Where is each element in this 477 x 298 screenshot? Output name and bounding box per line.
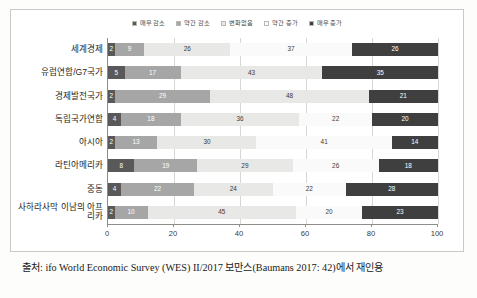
bar-value-label: 26	[332, 163, 339, 169]
legend-label: 매우 감소	[140, 20, 166, 26]
bar-value-label: 13	[132, 139, 139, 145]
bar-segment[interactable]: 29	[115, 90, 211, 103]
bar-segment[interactable]: 2	[108, 136, 115, 149]
bar-value-label: 20	[401, 116, 408, 122]
legend-swatch-icon	[221, 21, 226, 26]
bar-segment[interactable]: 41	[256, 136, 391, 149]
bar-segment[interactable]: 37	[230, 43, 352, 56]
bar-value-label: 36	[236, 116, 243, 122]
bar-value-label: 22	[306, 186, 313, 192]
bar-value-label: 26	[392, 46, 399, 52]
legend-item[interactable]: 약간 증가	[264, 20, 298, 26]
bar-value-label: 30	[203, 139, 210, 145]
bar-segment[interactable]: 26	[293, 159, 379, 172]
bar-segment[interactable]: 28	[346, 183, 438, 196]
bar-segment[interactable]: 13	[115, 136, 158, 149]
bar-value-label: 20	[326, 209, 333, 215]
bar-segment[interactable]: 18	[121, 113, 180, 126]
bar-segment[interactable]: 43	[181, 66, 323, 79]
plot-area: 2926372651743352294821418362220213304114…	[107, 38, 438, 224]
chart-page: 매우 감소약간 감소변화없음약간 증가매우 증가 세계경제유럽연합/G7국가경제…	[0, 0, 477, 298]
bar-value-label: 2	[110, 209, 114, 215]
bar-value-label: 48	[286, 93, 293, 99]
chart-legend: 매우 감소약간 감소변화없음약간 증가매우 증가	[11, 20, 463, 26]
bar-segment[interactable]: 8	[108, 159, 134, 172]
bar-value-label: 2	[110, 46, 114, 52]
bar-segment[interactable]: 45	[148, 206, 297, 219]
bar-row: 213304114	[108, 136, 438, 149]
legend-label: 매우 증가	[317, 20, 343, 26]
bar-segment[interactable]: 22	[273, 183, 346, 196]
bar-value-label: 28	[388, 186, 395, 192]
bar-row: 5174335	[108, 66, 438, 79]
bar-value-label: 41	[321, 139, 328, 145]
x-tick-mark	[371, 224, 372, 227]
bar-segment[interactable]: 4	[108, 183, 121, 196]
bar-row: 29263726	[108, 43, 438, 56]
bar-segment[interactable]: 10	[115, 206, 148, 219]
bar-segment[interactable]: 26	[352, 43, 438, 56]
category-label: 아시아	[11, 138, 103, 147]
bar-segment[interactable]: 29	[197, 159, 293, 172]
legend-swatch-icon	[309, 21, 314, 26]
bar-segment[interactable]: 36	[181, 113, 300, 126]
x-tick-label: 80	[367, 229, 375, 238]
bar-segment[interactable]: 24	[194, 183, 273, 196]
x-tick-mark	[305, 224, 306, 227]
bar-row: 210452023	[108, 206, 438, 219]
bar-segment[interactable]: 20	[372, 113, 438, 126]
bar-segment[interactable]: 2	[108, 43, 115, 56]
bar-segment[interactable]: 18	[379, 159, 438, 172]
bar-segment[interactable]: 2	[108, 206, 115, 219]
legend-item[interactable]: 변화없음	[221, 20, 253, 26]
bar-segment[interactable]: 26	[144, 43, 230, 56]
bar-row: 2294821	[108, 90, 438, 103]
bar-value-label: 21	[400, 93, 407, 99]
bar-segment[interactable]: 35	[322, 66, 438, 79]
category-label: 사하라사막 이남의 아프리카	[11, 203, 103, 222]
bar-value-label: 22	[154, 186, 161, 192]
bar-value-label: 29	[241, 163, 248, 169]
bar-value-label: 35	[377, 70, 384, 76]
bar-segment[interactable]: 14	[392, 136, 438, 149]
x-tick-label: 40	[235, 229, 243, 238]
category-axis-labels: 세계경제유럽연합/G7국가경제발전국가독립국가연합아시아라틴아메리카중동사하라사…	[11, 38, 107, 224]
bar-segment[interactable]: 19	[134, 159, 197, 172]
bar-segment[interactable]: 2	[108, 90, 115, 103]
bar-value-label: 14	[411, 139, 418, 145]
bar-value-label: 43	[248, 70, 255, 76]
bar-segment[interactable]: 9	[115, 43, 145, 56]
bar-value-label: 4	[113, 116, 117, 122]
bar-value-label: 24	[230, 186, 237, 192]
legend-item[interactable]: 매우 증가	[309, 20, 343, 26]
bar-value-label: 4	[113, 186, 117, 192]
bar-segment[interactable]: 21	[369, 90, 438, 103]
x-axis-line	[107, 224, 437, 225]
bar-segment[interactable]: 5	[108, 66, 125, 79]
legend-item[interactable]: 매우 감소	[132, 20, 166, 26]
source-caption: 출처: ifo World Economic Survey (WES) II/2…	[22, 262, 458, 274]
bar-segment[interactable]: 48	[210, 90, 368, 103]
bar-segment[interactable]: 23	[362, 206, 438, 219]
bar-value-label: 22	[332, 116, 339, 122]
category-label: 유럽연합/G7국가	[11, 68, 103, 77]
category-label: 독립국가연합	[11, 115, 103, 124]
bar-segment[interactable]: 22	[299, 113, 372, 126]
bar-segment[interactable]: 20	[296, 206, 362, 219]
bar-segment[interactable]: 30	[157, 136, 256, 149]
legend-item[interactable]: 약간 감소	[176, 20, 210, 26]
x-tick-mark	[239, 224, 240, 227]
x-tick-mark	[107, 224, 108, 227]
bar-value-label: 8	[119, 163, 123, 169]
figure-frame: 매우 감소약간 감소변화없음약간 증가매우 증가 세계경제유럽연합/G7국가경제…	[10, 9, 464, 252]
bar-value-label: 23	[396, 209, 403, 215]
bar-value-label: 45	[218, 209, 225, 215]
x-tick-label: 0	[105, 229, 109, 238]
bar-row: 819292618	[108, 159, 438, 172]
bar-value-label: 19	[162, 163, 169, 169]
bar-segment[interactable]: 4	[108, 113, 121, 126]
bar-segment[interactable]: 22	[121, 183, 194, 196]
plot-wrapper: 세계경제유럽연합/G7국가경제발전국가독립국가연합아시아라틴아메리카중동사하라사…	[11, 38, 465, 252]
bar-segment[interactable]: 17	[125, 66, 181, 79]
bar-value-label: 18	[147, 116, 154, 122]
